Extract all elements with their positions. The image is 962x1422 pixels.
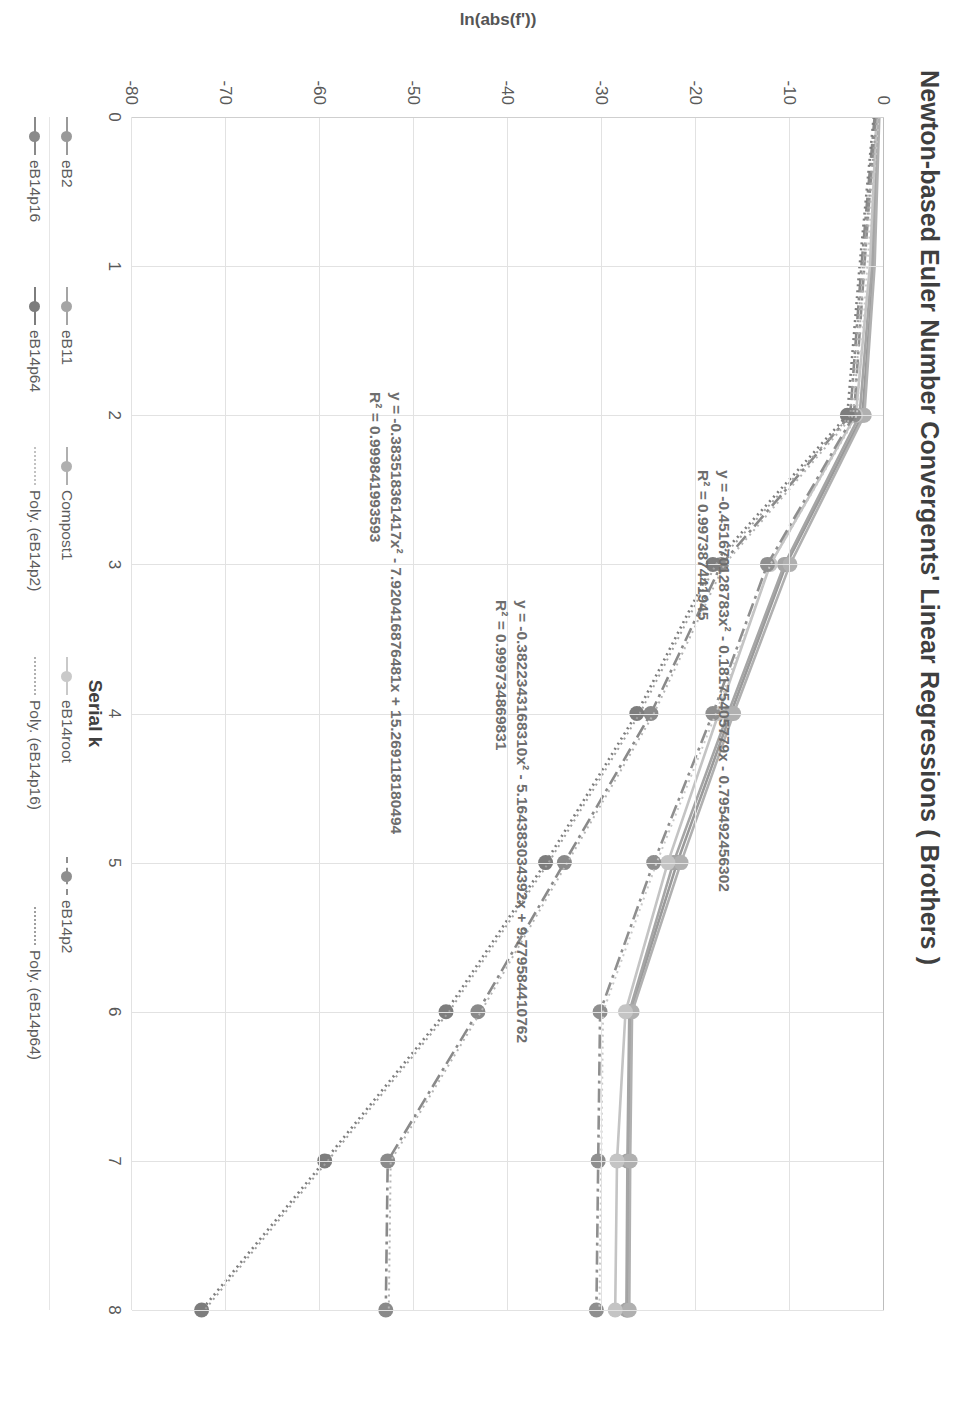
- legend-item-poly-eb14p16[interactable]: Poly. (eB14p16): [26, 657, 44, 810]
- x-axis-line: [883, 117, 884, 1310]
- gridline-vertical: [132, 1310, 884, 1311]
- x-axis-tick-label: 6: [104, 992, 124, 1032]
- legend-swatch-icon: [60, 447, 74, 485]
- x-axis-tick-label: 7: [104, 1141, 124, 1181]
- legend-swatch-icon: [60, 657, 74, 695]
- y-axis-title: ln(abs(f')): [398, 10, 598, 30]
- annotation-r-squared: R² = 0.997387441945: [692, 470, 713, 892]
- legend-item-eb14p2[interactable]: eB14p2: [58, 857, 76, 953]
- annotation-equation: y = -0.383518361417x² - 7.920416876481x …: [388, 392, 405, 834]
- legend-swatch-icon: [28, 287, 42, 325]
- legend-swatch-icon: [28, 447, 42, 485]
- legend-row: eB2eB11Compost1eB14rooteB14p2: [50, 117, 76, 1310]
- annotation-equation: y = -0.3822343168310x² - 5.164383034392x…: [514, 600, 531, 1043]
- legend-item-label: eB14root: [58, 700, 76, 763]
- legend-item-label: eB14p64: [26, 330, 44, 392]
- annot-3: y = -0.383518361417x² - 7.920416876481x …: [364, 392, 406, 834]
- legend-item-poly-eb14p2[interactable]: Poly. (eB14p2): [26, 447, 44, 591]
- legend-item-label: eB2: [58, 160, 76, 188]
- x-axis-tick-label: 3: [104, 544, 124, 584]
- y-axis-tick-label: -80: [121, 39, 141, 105]
- x-axis-tick-label: 2: [104, 395, 124, 435]
- legend-swatch-icon: [28, 907, 42, 945]
- legend-item-poly-eb14p64[interactable]: Poly. (eB14p64): [26, 907, 44, 1060]
- legend-swatch-icon: [60, 117, 74, 155]
- y-axis-line: [132, 117, 884, 118]
- legend-swatch-icon: [28, 657, 42, 695]
- legend-swatch-icon: [60, 857, 74, 895]
- annot-1: y = -0.451670128783x² - 0.18175405779x -…: [692, 470, 734, 892]
- x-axis-tick-label: 8: [104, 1290, 124, 1330]
- legend-item-label: eB11: [58, 330, 76, 365]
- legend-item-eb11[interactable]: eB11: [58, 287, 76, 365]
- legend-item-eb14p16[interactable]: eB14p16: [26, 117, 44, 222]
- gridline-vertical: [132, 564, 884, 565]
- chart-title: Newton-based Euler Number Convergents' L…: [915, 70, 944, 1070]
- legend-item-eb14root[interactable]: eB14root: [58, 657, 76, 763]
- x-axis-tick-label: 1: [104, 246, 124, 286]
- chart-figure: Newton-based Euler Number Convergents' L…: [0, 0, 962, 1422]
- legend-swatch-icon: [60, 287, 74, 325]
- legend-title: Serial k: [84, 117, 106, 1310]
- legend-row: eB14p16eB14p64Poly. (eB14p2)Poly. (eB14p…: [18, 117, 44, 1310]
- legend-item-label: eB14p2: [58, 900, 76, 953]
- legend-swatch-icon: [28, 117, 42, 155]
- legend-item-eb14p64[interactable]: eB14p64: [26, 287, 44, 392]
- gridline-vertical: [132, 1161, 884, 1162]
- y-axis-tick-label: -70: [215, 39, 235, 105]
- y-axis-tick-label: 0: [873, 39, 893, 105]
- annotation-r-squared: R² = 0.999734869831: [490, 600, 511, 1043]
- chart-legend: Serial k eB2eB11Compost1eB14rooteB14p2eB…: [6, 117, 106, 1310]
- rotated-figure-wrapper: Newton-based Euler Number Convergents' L…: [0, 0, 962, 1422]
- annotation-equation: y = -0.451670128783x² - 0.18175405779x -…: [716, 470, 733, 892]
- x-axis-tick-label: 5: [104, 843, 124, 883]
- y-axis-tick-label: -60: [309, 39, 329, 105]
- legend-item-eb2[interactable]: eB2: [58, 117, 76, 188]
- y-axis-tick-label: -40: [497, 39, 517, 105]
- y-axis-tick-label: -50: [403, 39, 423, 105]
- legend-item-label: eB14p16: [26, 160, 44, 222]
- x-axis-tick-label: 0: [104, 97, 124, 137]
- gridline-vertical: [132, 415, 884, 416]
- annotation-r-squared: R² = 0.999841993593: [364, 392, 385, 834]
- legend-item-label: Poly. (eB14p2): [26, 490, 44, 591]
- gridline-vertical: [132, 266, 884, 267]
- legend-item-label: Poly. (eB14p16): [26, 700, 44, 810]
- annot-2: y = -0.3822343168310x² - 5.164383034392x…: [490, 600, 532, 1043]
- legend-divider: [49, 117, 50, 1310]
- y-axis-tick-label: -20: [685, 39, 705, 105]
- x-axis-tick-label: 4: [104, 694, 124, 734]
- y-axis-tick-label: -30: [591, 39, 611, 105]
- y-axis-tick-label: -10: [779, 39, 799, 105]
- legend-item-compost1[interactable]: Compost1: [58, 447, 76, 561]
- legend-item-label: Compost1: [58, 490, 76, 561]
- legend-item-label: Poly. (eB14p64): [26, 950, 44, 1060]
